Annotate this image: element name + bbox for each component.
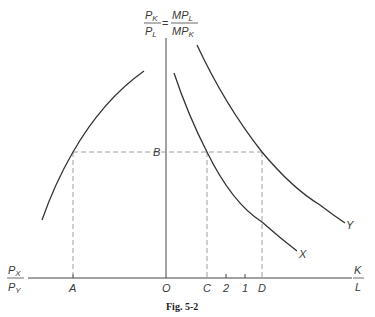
- point-label-b: B: [153, 146, 160, 158]
- svg-text:PK: PK: [145, 9, 158, 23]
- svg-text:MPK: MPK: [172, 25, 195, 39]
- curve-label-x: X: [298, 248, 307, 260]
- point-label-c: C: [203, 282, 211, 294]
- svg-text:PL: PL: [145, 25, 157, 39]
- curve-label-y: Y: [346, 219, 354, 231]
- svg-text:K: K: [354, 264, 362, 276]
- svg-text:PX: PX: [8, 264, 21, 278]
- curve-x: [174, 73, 297, 251]
- figure-caption: Fig. 5-2: [166, 301, 198, 312]
- tick-label-1: 1: [242, 282, 248, 294]
- point-label-origin: O: [162, 282, 171, 294]
- curve-y: [197, 45, 345, 223]
- svg-text:PY: PY: [8, 281, 21, 295]
- x-axis-label-left: PX PY: [7, 264, 24, 295]
- diagram-canvas: PK PL = MPL MPK K L PX PY A O C 2 1 D B …: [0, 0, 375, 317]
- svg-text:MPL: MPL: [172, 9, 193, 23]
- tick-label-2: 2: [222, 282, 229, 294]
- y-axis-label: PK PL = MPL MPK: [144, 9, 198, 39]
- svg-text:L: L: [355, 281, 361, 293]
- point-label-a: A: [68, 282, 76, 294]
- left-curve: [42, 71, 144, 220]
- svg-text:=: =: [162, 17, 168, 29]
- point-label-d: D: [258, 282, 266, 294]
- x-axis-label-right: K L: [353, 264, 364, 293]
